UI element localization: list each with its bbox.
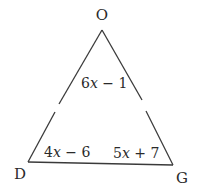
vertex-label-D: D	[14, 165, 26, 183]
side-DG	[28, 162, 173, 165]
side-OD-upper	[59, 30, 102, 104]
angle-label-D: 4x − 6	[44, 144, 90, 160]
vertex-label-G: G	[176, 169, 188, 187]
vertex-label-O: O	[96, 6, 108, 24]
angle-label-O: 6x − 1	[81, 75, 127, 91]
triangle-diagram: O D G 6x − 1 4x − 6 5x + 7	[0, 0, 199, 192]
angle-label-G: 5x + 7	[113, 145, 159, 161]
